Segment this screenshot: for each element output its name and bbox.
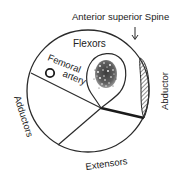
posterior-septum (58, 108, 101, 145)
lateral-septum-thick (101, 108, 144, 118)
arrow-down-icon (132, 27, 138, 40)
label-flexors: Flexors (73, 38, 106, 49)
femoral-artery-vessel (46, 69, 54, 77)
label-extensors: Extensors (85, 155, 129, 172)
label-artery: artery (61, 68, 88, 87)
abductor-muscle-band (140, 58, 149, 118)
label-abductor: Abductor (159, 72, 170, 110)
label-anterior-superior-spine: Anterior superior Spine (72, 11, 169, 22)
thigh-compartment-diagram: Anterior superior Spine Flexors Femoral … (0, 0, 190, 178)
